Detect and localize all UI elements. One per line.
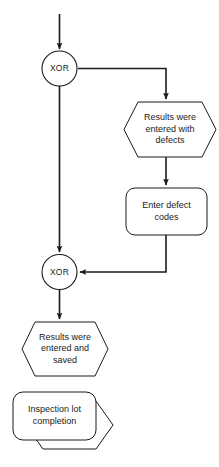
event-results-entered-with-defects[interactable] <box>124 102 216 157</box>
flowchart-canvas: XOR Results were entered with defects En… <box>0 0 219 467</box>
gateway-xor-top[interactable] <box>42 51 77 86</box>
event-results-entered-and-saved[interactable] <box>22 322 108 376</box>
connector-xor-top-to-event-defects <box>78 69 166 100</box>
function-enter-defect-codes[interactable] <box>126 188 207 235</box>
connector-enter-codes-to-xor-bottom <box>80 235 166 272</box>
gateway-xor-bottom[interactable] <box>42 255 77 290</box>
flowchart-svg <box>0 0 219 467</box>
process-interface-inspection-lot-completion[interactable] <box>13 392 96 440</box>
